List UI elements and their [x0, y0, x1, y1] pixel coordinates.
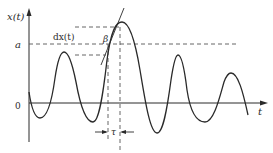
y-axis: [27, 8, 32, 142]
x-axis-arrow-icon: [260, 101, 268, 106]
level-crossing-diagram: x(t) a 0 t dx(t) β τ: [0, 0, 273, 153]
level-a-label: a: [15, 39, 21, 50]
interval-tau-label: τ: [111, 127, 117, 137]
x-axis-label: t: [258, 106, 263, 117]
x-axis: [29, 101, 268, 106]
y-axis-label: x(t): [7, 11, 25, 22]
y-axis-arrow-icon: [27, 8, 32, 16]
derivative-label: dx(t): [53, 32, 74, 42]
angle-beta-label: β: [102, 34, 108, 44]
origin-label: 0: [15, 101, 21, 111]
